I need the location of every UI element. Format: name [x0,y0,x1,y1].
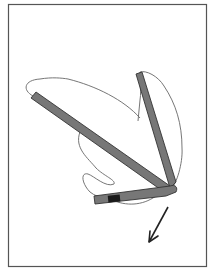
foot-band [108,194,121,202]
member-foot [94,185,177,204]
figure-frame [9,5,207,267]
direction-arrow-shaft [149,207,168,242]
diagram-figure [0,0,218,274]
diagram-canvas [0,0,218,274]
